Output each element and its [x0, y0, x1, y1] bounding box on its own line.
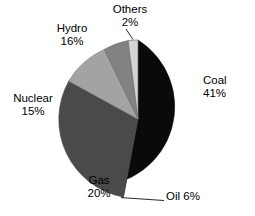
slice-label-nuclear-value: 15%: [2, 105, 64, 118]
slice-label-hydro: Hydro 16%: [44, 22, 100, 48]
leader-line-oil: [121, 198, 164, 201]
slice-label-oil-name: Oil: [166, 190, 180, 202]
slice-label-gas: Gas 20%: [76, 174, 122, 200]
slice-label-gas-value: 20%: [76, 187, 122, 200]
slice-label-oil: Oil 6%: [166, 190, 226, 203]
slice-label-nuclear-name: Nuclear: [2, 92, 64, 105]
slice-label-coal: Coal 41%: [203, 74, 253, 100]
slice-label-oil-value: 6%: [183, 190, 200, 202]
slice-label-nuclear: Nuclear 15%: [2, 92, 64, 118]
slice-label-others-name: Others: [102, 3, 158, 16]
slice-label-coal-value: 41%: [203, 87, 253, 100]
slice-label-hydro-name: Hydro: [44, 22, 100, 35]
slice-label-others-value: 2%: [102, 16, 158, 29]
slice-label-gas-name: Gas: [76, 174, 122, 187]
slice-label-hydro-value: 16%: [44, 35, 100, 48]
leader-line-others: [126, 29, 133, 40]
slice-label-coal-name: Coal: [203, 74, 253, 87]
pie-chart-figure: Others 2% Hydro 16% Nuclear 15% Gas 20% …: [0, 0, 255, 216]
slice-label-others: Others 2%: [102, 3, 158, 29]
